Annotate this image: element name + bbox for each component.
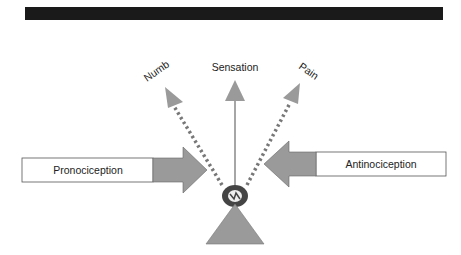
numb-arrowhead [165, 87, 183, 108]
sensation-label: Sensation [212, 61, 259, 73]
antinociception-label: Antinociception [345, 158, 416, 170]
numb-label: Numb [141, 58, 171, 84]
nociception-diagram: Sensation Numb Pain Pronociception Antin… [0, 0, 461, 255]
pronociception-label: Pronociception [53, 164, 123, 176]
base-triangle [206, 204, 264, 244]
antinociception-arrow: Antinociception [264, 141, 446, 187]
pain-label: Pain [297, 60, 321, 82]
pronociception-arrow: Pronociception [22, 147, 207, 193]
sensation-arrowhead [225, 80, 245, 101]
pain-arrowhead [283, 83, 300, 104]
